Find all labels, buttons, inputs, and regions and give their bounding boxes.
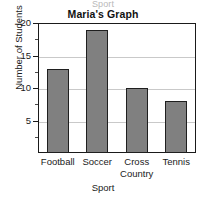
x-tick-label-line: Tennis xyxy=(163,156,190,167)
x-tick-label-line: Football xyxy=(41,156,75,167)
y-tick-label: 15 xyxy=(20,50,31,61)
bar-slot xyxy=(126,23,148,153)
bar-football xyxy=(47,69,69,154)
x-tick-label: Football xyxy=(38,156,78,168)
x-tick-label-line: Cross xyxy=(124,156,149,167)
x-tick-label-line: Country xyxy=(117,168,157,180)
x-tick-label: Tennis xyxy=(157,156,197,168)
x-axis-tick-labels: FootballSoccerCrossCountryTennis xyxy=(38,156,196,184)
y-axis-ticks: 5101520 xyxy=(0,23,38,153)
y-tick-label: 10 xyxy=(20,82,31,93)
bar-series xyxy=(38,23,196,153)
bar-cross-country xyxy=(126,88,148,153)
x-axis-title: Sport xyxy=(0,182,206,193)
bar-slot xyxy=(47,23,69,153)
bar-soccer xyxy=(86,30,108,154)
y-tick-label: 5 xyxy=(26,115,31,126)
y-tick-label: 20 xyxy=(20,17,31,28)
bar-slot xyxy=(165,23,187,153)
x-tick-label: Soccer xyxy=(78,156,118,168)
x-tick-label: CrossCountry xyxy=(117,156,157,179)
bar-slot xyxy=(86,23,108,153)
x-tick-label-line: Soccer xyxy=(82,156,112,167)
bar-tennis xyxy=(165,101,187,153)
